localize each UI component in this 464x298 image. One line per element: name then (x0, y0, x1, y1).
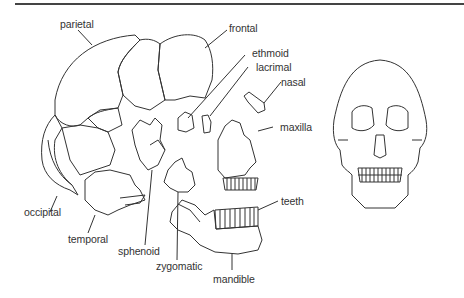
frontal-bone (158, 35, 213, 100)
label-teeth: teeth (281, 196, 304, 207)
parietal-bone (55, 35, 140, 126)
anterior-skull (333, 60, 426, 208)
label-sphenoid: sphenoid (118, 246, 160, 257)
skull-lower (62, 125, 115, 175)
temporal-process (120, 195, 145, 205)
label-frontal: frontal (229, 23, 257, 34)
leader-ethmoid (188, 55, 245, 118)
occipital-inner (48, 140, 72, 185)
label-zygomatic: zygomatic (156, 261, 202, 272)
ethmoid-bone (178, 112, 194, 132)
leader-temporal (88, 215, 95, 233)
parietal-fragment (88, 108, 122, 132)
leader-sphenoid (145, 170, 152, 245)
leader-parietal (78, 30, 92, 45)
label-parietal: parietal (60, 19, 94, 30)
nasal-bone (244, 92, 265, 113)
crown-piece (118, 39, 165, 110)
label-maxilla: maxilla (280, 122, 312, 133)
leader-zygomatic (177, 192, 178, 260)
leader-maxilla (258, 127, 273, 131)
leader-teeth (258, 201, 278, 210)
lower-teeth (215, 207, 258, 229)
label-occipital: occipital (24, 207, 61, 218)
leader-lacrimal (210, 67, 248, 116)
label-mandible: mandible (213, 274, 255, 285)
label-ethmoid: ethmoid (252, 48, 289, 59)
maxilla-bone (218, 120, 256, 178)
upper-teeth (223, 178, 258, 190)
zygomatic-bone (164, 158, 195, 192)
leader-frontal (205, 30, 227, 48)
label-nasal: nasal (281, 77, 306, 88)
temporal-bone (85, 170, 145, 215)
sphenoid-bone (132, 118, 165, 170)
label-lacrimal: lacrimal (256, 62, 291, 73)
label-temporal: temporal (68, 234, 108, 245)
lacrimal-bone (202, 115, 211, 133)
leader-nasal (264, 82, 281, 103)
occipital-bone (42, 115, 78, 195)
skull-illustration (0, 0, 464, 298)
